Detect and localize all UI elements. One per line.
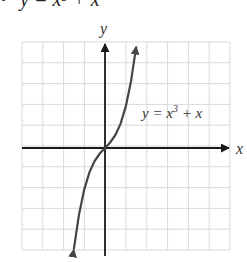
x-axis-label: x <box>235 140 243 157</box>
y-axis-label: y <box>98 20 108 38</box>
grid <box>22 42 230 250</box>
graph: x y y = x3 + x <box>0 0 247 262</box>
curve-label: y = x3 + x <box>140 103 203 121</box>
